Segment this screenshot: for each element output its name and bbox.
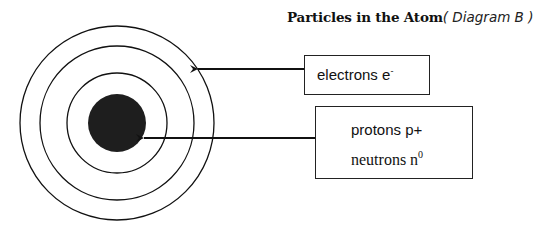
electrons-label-box: electrons e- [304, 55, 430, 95]
title-main: Particles in the Atom [287, 9, 443, 25]
diagram-title: Particles in the Atom( Diagram B ) [287, 9, 533, 26]
nucleus-label-box: protons p+ neutrons n0 [315, 106, 473, 179]
neutrons-label: neutrons n0 [351, 149, 423, 169]
protons-label: protons p+ [351, 121, 422, 138]
nucleus [88, 94, 146, 152]
neutrons-text: neutrons n [351, 151, 418, 168]
title-sub: ( Diagram B ) [443, 9, 533, 25]
neutrons-charge: 0 [418, 149, 423, 160]
electrons-label: electrons e- [317, 66, 393, 83]
electrons-charge: - [390, 66, 393, 76]
electrons-text: electrons e [317, 66, 390, 83]
